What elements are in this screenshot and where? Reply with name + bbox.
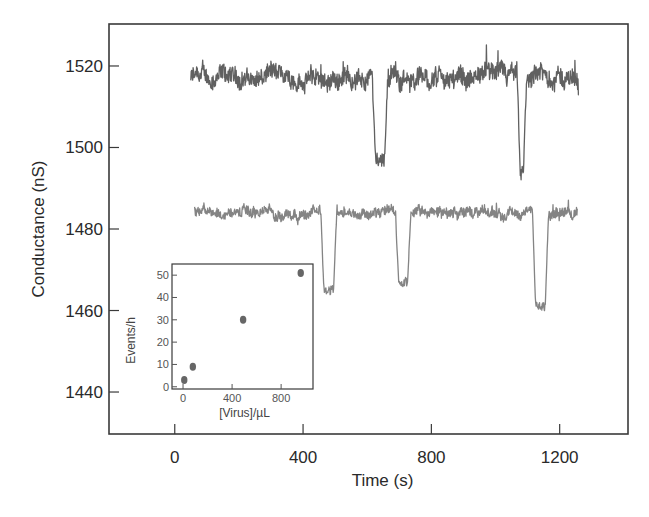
inset-y-axis-label: Events/h [124,317,138,364]
inset-y-tick-label: 40 [157,291,169,303]
chart: 04008001200 14401460148015001520 Time (s… [0,0,649,517]
x-tick-label: 400 [289,448,317,467]
inset-data-point [240,316,246,324]
y-tick-label: 1440 [65,383,103,402]
inset-data-point [181,376,187,384]
y-tick-label: 1500 [65,138,103,157]
inset-data-point [190,363,196,371]
x-tick-label: 800 [417,448,445,467]
inset-y-tick-label: 20 [157,336,169,348]
inset-y-tick-label: 10 [157,358,169,370]
inset-data-point [298,269,304,277]
inset-y-tick-label: 50 [157,269,169,281]
y-axis-label: Conductance (nS) [29,160,48,297]
inset-x-tick-label: 800 [272,392,290,404]
inset-x-axis-label: [Virus]/µL [219,406,270,420]
inset-x-tick-label: 400 [223,392,241,404]
main-x-axis: 04008001200 [170,424,579,467]
main-y-axis: 14401460148015001520 [65,57,119,402]
x-tick-label: 0 [170,448,179,467]
y-tick-label: 1460 [65,302,103,321]
y-tick-label: 1520 [65,57,103,76]
x-tick-label: 1200 [541,448,579,467]
x-axis-label: Time (s) [352,471,414,490]
inset-y-tick-label: 30 [157,314,169,326]
y-tick-label: 1480 [65,220,103,239]
inset-y-tick-label: 0 [163,381,169,393]
main-plot: 04008001200 14401460148015001520 Time (s… [29,24,628,490]
inset-plot: 0400800 01020304050 [Virus]/µL Events/h [124,264,313,420]
trace-upper-trace [191,45,579,180]
inset-x-tick-label: 0 [180,392,186,404]
